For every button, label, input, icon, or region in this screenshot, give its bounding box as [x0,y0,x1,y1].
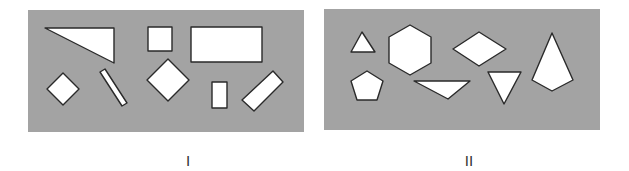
small-rectangle-shape [212,82,227,108]
panel-ii [324,9,600,130]
panel-ii-label: II [465,152,473,169]
wide-rectangle-shape [191,27,262,62]
small-square-shape [148,27,172,51]
panel-i [28,10,304,132]
shape-figure [0,0,629,171]
panel-i-label: I [186,152,190,169]
